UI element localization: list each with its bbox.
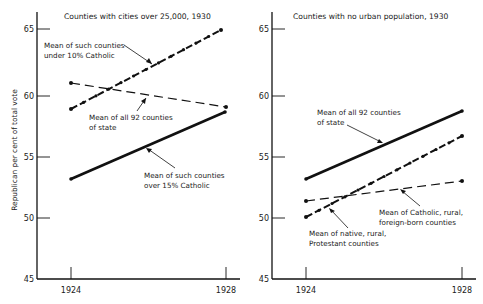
y-axis-label: Republican per cent of total vote bbox=[10, 89, 19, 211]
annotation-all92-right-line1: Mean of all 92 counties bbox=[317, 108, 401, 117]
annotation-over-15-line2: over 15% Catholic bbox=[144, 181, 210, 190]
right-xtick-1924: 1924 bbox=[296, 286, 316, 295]
left-panel: 65 60 55 50 45 1924 1928 Counties with c… bbox=[10, 12, 240, 295]
annotation-native-rural-line2: Protestant counties bbox=[309, 239, 379, 248]
series-all-92-counties-left bbox=[69, 81, 228, 109]
series-catholic-rural-foreign-born bbox=[304, 179, 464, 203]
annotation-native-rural-line1: Mean of native, rural, bbox=[309, 229, 386, 238]
left-panel-title: Counties with cities over 25,000, 1930 bbox=[64, 12, 211, 21]
left-xtick-1924: 1924 bbox=[61, 286, 81, 295]
left-ytick-45: 45 bbox=[24, 275, 34, 284]
figure: 65 60 55 50 45 1924 1928 Counties with c… bbox=[0, 0, 483, 304]
left-ytick-60: 60 bbox=[24, 92, 34, 101]
left-ytick-65: 65 bbox=[24, 25, 34, 34]
annotation-all92-right-line2: of state bbox=[317, 118, 345, 127]
right-ytick-55: 55 bbox=[259, 153, 269, 162]
annotation-under-10-line1: Mean of such counties bbox=[44, 41, 125, 50]
right-ytick-45: 45 bbox=[259, 275, 269, 284]
right-xtick-1928: 1928 bbox=[452, 286, 472, 295]
right-panel: 65 60 55 50 45 1924 1928 Counties with n… bbox=[259, 12, 476, 295]
annotation-all92-left-line2: of state bbox=[89, 123, 117, 132]
right-ytick-60: 60 bbox=[259, 92, 269, 101]
right-panel-title: Counties with no urban population, 1930 bbox=[293, 12, 448, 21]
left-xtick-1928: 1928 bbox=[216, 286, 236, 295]
left-ytick-55: 55 bbox=[24, 153, 34, 162]
annotation-catholic-rural-line2: foreign-born counties bbox=[379, 218, 456, 227]
left-ytick-50: 50 bbox=[24, 214, 34, 223]
right-ytick-65: 65 bbox=[259, 25, 269, 34]
annotation-under-10-line2: under 10% Catholic bbox=[44, 51, 115, 60]
annotation-catholic-rural-line1: Mean of Catholic, rural, bbox=[379, 208, 463, 217]
annotation-all92-left-line1: Mean of all 92 counties bbox=[89, 113, 173, 122]
right-ytick-50: 50 bbox=[259, 214, 269, 223]
annotation-over-15-line1: Mean of such counties bbox=[144, 171, 225, 180]
series-native-rural-protestant bbox=[304, 134, 464, 219]
